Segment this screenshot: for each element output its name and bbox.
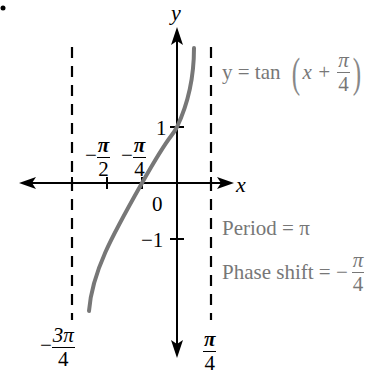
x-tick-label-neg-pi-4: −π4 (121, 135, 146, 180)
y-axis-label: y (171, 2, 181, 24)
bullet-dot (1, 6, 6, 11)
y-tick-label-neg-1: −1 (141, 230, 163, 251)
phase-shift-annotation: Phase shift = − π4 (222, 250, 364, 295)
phase-shift-prefix: Phase shift = − (222, 262, 348, 283)
period-annotation: Period = π (222, 218, 310, 239)
right-paren: ) (353, 52, 361, 94)
neg-sign: − (85, 143, 97, 167)
equation-label: y = tan ( x + π4 ) (222, 50, 364, 95)
x-tick-label-pi-4: π4 (203, 329, 216, 374)
x-tick-label-neg-3pi-4: −3π4 (40, 325, 75, 370)
y-tick-label-1: 1 (156, 118, 167, 139)
x-tick-label-neg-pi-2: −π2 (85, 135, 110, 180)
equation-x-plus: x + (303, 62, 332, 83)
neg-sign: − (121, 143, 133, 167)
equation-prefix: y = tan (222, 62, 281, 83)
left-paren: ( (291, 52, 299, 94)
neg-sign: − (40, 333, 52, 357)
x-axis-label: x (236, 174, 246, 196)
origin-label: 0 (152, 194, 163, 215)
